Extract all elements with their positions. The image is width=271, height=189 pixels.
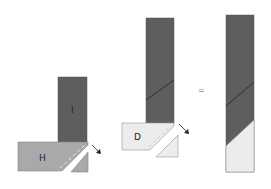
label-d: D <box>134 132 141 142</box>
left-figure: I H <box>18 77 101 172</box>
block-d <box>122 123 174 150</box>
diagram-canvas: I H D = <box>0 0 271 189</box>
middle-figure: D <box>122 18 189 157</box>
arrow-icon <box>179 124 189 134</box>
label-h: H <box>39 153 46 163</box>
right-figure <box>226 15 254 172</box>
equals-sign: = <box>198 86 205 95</box>
arrow-icon <box>92 145 101 154</box>
tall-block <box>146 18 174 123</box>
label-i: I <box>71 105 74 115</box>
